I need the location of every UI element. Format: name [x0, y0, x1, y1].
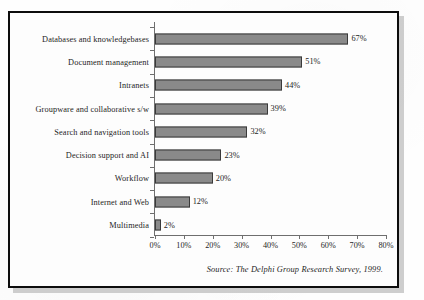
x-axis-tick: [184, 235, 185, 239]
bar-value-label: 2%: [161, 221, 175, 230]
y-axis-tick: [150, 237, 154, 238]
bar: [155, 80, 282, 91]
bar: [155, 103, 268, 114]
bar-row: Databases and knowledgebases67%: [10, 27, 397, 50]
bar-row: Internet and Web12%: [10, 190, 397, 213]
bar-value-label: 67%: [348, 34, 366, 43]
category-label: Document management: [68, 57, 149, 66]
y-axis-tick: [150, 27, 154, 28]
bar-chart-plot-area: Databases and knowledgebases67%Document …: [10, 13, 397, 286]
y-axis-tick: [150, 120, 154, 121]
bar: [155, 196, 190, 207]
category-label: Search and navigation tools: [54, 127, 149, 136]
category-label: Groupware and collaborative s/w: [36, 104, 149, 113]
x-axis-tick: [386, 235, 387, 239]
bar-track: 2%: [155, 220, 386, 231]
bar-row: Decision support and AI23%: [10, 144, 397, 167]
category-label: Internet and Web: [91, 197, 149, 206]
bar-value-label: 39%: [268, 104, 286, 113]
category-label: Multimedia: [109, 221, 149, 230]
bar-row: Multimedia2%: [10, 213, 397, 236]
chart-figure-frame: Databases and knowledgebases67%Document …: [8, 11, 399, 288]
x-axis-tick-label: 0%: [150, 241, 161, 250]
y-axis-tick: [150, 190, 154, 191]
bar-row: Document management51%: [10, 50, 397, 73]
bar-track: 20%: [155, 173, 386, 184]
x-axis-tick: [271, 235, 272, 239]
x-axis-tick: [242, 235, 243, 239]
y-axis-tick: [150, 213, 154, 214]
bar-value-label: 20%: [213, 174, 231, 183]
x-axis-tick: [299, 235, 300, 239]
bar-value-label: 23%: [221, 151, 239, 160]
x-axis-tick-label: 20%: [205, 241, 220, 250]
category-label: Databases and knowledgebases: [42, 34, 149, 43]
bar: [155, 126, 247, 137]
x-axis-tick-label: 10%: [176, 241, 191, 250]
y-axis-tick: [150, 144, 154, 145]
bar: [155, 150, 221, 161]
bar-value-label: 51%: [302, 57, 320, 66]
bar-row: Workflow20%: [10, 167, 397, 190]
bar: [155, 33, 348, 44]
x-axis-tick-label: 70%: [350, 241, 365, 250]
bar-row: Search and navigation tools32%: [10, 120, 397, 143]
category-label: Decision support and AI: [66, 151, 149, 160]
bar-track: 67%: [155, 33, 386, 44]
bar-row: Groupware and collaborative s/w39%: [10, 97, 397, 120]
bar: [155, 173, 213, 184]
bar-track: 44%: [155, 80, 386, 91]
y-axis-tick: [150, 74, 154, 75]
bar-row: Intranets44%: [10, 74, 397, 97]
bar: [155, 56, 302, 67]
x-axis-tick-label: 80%: [378, 241, 393, 250]
y-axis-tick: [150, 50, 154, 51]
category-label: Intranets: [119, 81, 149, 90]
y-axis-tick: [150, 167, 154, 168]
x-axis-tick-label: 30%: [234, 241, 249, 250]
bar-track: 12%: [155, 196, 386, 207]
bar-value-label: 44%: [282, 81, 300, 90]
bar-track: 23%: [155, 150, 386, 161]
x-axis-tick-label: 50%: [292, 241, 307, 250]
x-axis-tick: [328, 235, 329, 239]
bar-track: 51%: [155, 56, 386, 67]
x-axis-tick: [155, 235, 156, 239]
category-label: Workflow: [115, 174, 149, 183]
x-axis-tick-label: 40%: [263, 241, 278, 250]
source-note: Source: The Delphi Group Research Survey…: [207, 265, 383, 274]
bar-value-label: 32%: [247, 127, 265, 136]
bar-value-label: 12%: [190, 197, 208, 206]
x-axis-tick: [213, 235, 214, 239]
y-axis-tick: [150, 97, 154, 98]
bar-track: 39%: [155, 103, 386, 114]
bar-track: 32%: [155, 126, 386, 137]
x-axis-tick-label: 60%: [321, 241, 336, 250]
x-axis-tick: [357, 235, 358, 239]
